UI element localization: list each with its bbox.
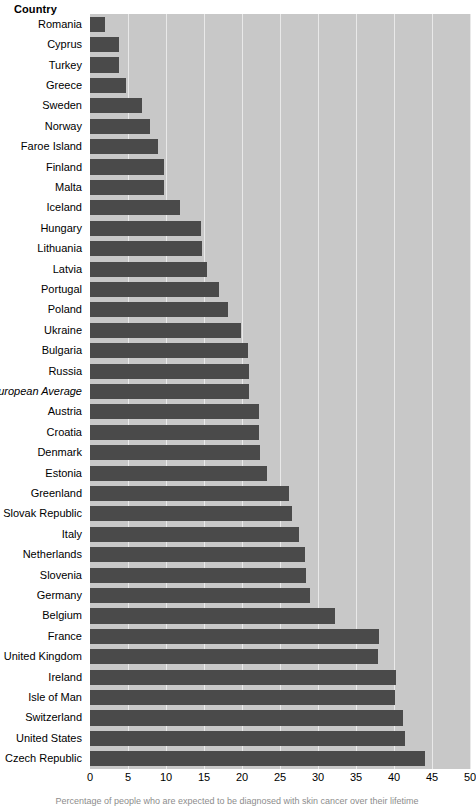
bar xyxy=(90,466,267,481)
bar-rows xyxy=(90,14,470,769)
category-label: Slovenia xyxy=(40,570,82,581)
bar xyxy=(90,404,259,419)
x-axis-tick-label: 10 xyxy=(160,771,172,783)
bar xyxy=(90,37,119,52)
chart-caption: Percentage of people who are expected to… xyxy=(0,796,474,806)
x-axis-tick-label: 45 xyxy=(426,771,438,783)
plot-area xyxy=(90,14,470,769)
bar xyxy=(90,588,310,603)
bar xyxy=(90,78,126,93)
category-label: Belgium xyxy=(42,610,82,621)
bar xyxy=(90,710,403,725)
bar xyxy=(90,17,105,32)
bar xyxy=(90,302,228,317)
category-label: Netherlands xyxy=(23,549,82,560)
category-label: Italy xyxy=(62,529,82,540)
category-label: Greece xyxy=(46,80,82,91)
bar xyxy=(90,384,249,399)
bar xyxy=(90,629,379,644)
bar xyxy=(90,527,299,542)
bar xyxy=(90,221,201,236)
category-label: Finland xyxy=(46,162,82,173)
category-label: Austria xyxy=(48,406,82,417)
bar xyxy=(90,57,119,72)
bar xyxy=(90,751,425,766)
category-label: Latvia xyxy=(53,264,82,275)
bar xyxy=(90,506,292,521)
category-label: Russia xyxy=(48,366,82,377)
category-label: Denmark xyxy=(37,447,82,458)
category-label: Ukraine xyxy=(44,325,82,336)
category-label: Norway xyxy=(45,121,82,132)
bar xyxy=(90,547,305,562)
category-label: France xyxy=(48,631,82,642)
bar xyxy=(90,364,249,379)
x-axis-tick-label: 25 xyxy=(274,771,286,783)
bar xyxy=(90,731,405,746)
category-label: Lithuania xyxy=(37,243,82,254)
bar xyxy=(90,323,241,338)
category-label: Poland xyxy=(48,304,82,315)
category-label: United Kingdom xyxy=(4,651,82,662)
x-axis-tick-label: 35 xyxy=(350,771,362,783)
bar xyxy=(90,119,150,134)
bar xyxy=(90,139,158,154)
category-label: United States xyxy=(16,733,82,744)
category-label: Slovak Republic xyxy=(3,508,82,519)
category-label: Malta xyxy=(55,182,82,193)
x-axis-tick-label: 20 xyxy=(236,771,248,783)
x-axis-tick-label: 0 xyxy=(87,771,93,783)
bar xyxy=(90,98,142,113)
category-label: Cyprus xyxy=(47,39,82,50)
bar xyxy=(90,445,260,460)
bar xyxy=(90,159,164,174)
x-axis-tick-label: 5 xyxy=(125,771,131,783)
bar xyxy=(90,200,180,215)
category-label: Estonia xyxy=(45,468,82,479)
x-axis-tick-label: 50 xyxy=(464,771,476,783)
category-label: Czech Republic xyxy=(5,753,82,764)
category-label: Portugal xyxy=(41,284,82,295)
category-label: Switzerland xyxy=(25,712,82,723)
x-axis-tick-label: 15 xyxy=(198,771,210,783)
category-label: Turkey xyxy=(49,60,82,71)
bar xyxy=(90,241,202,256)
category-label: Greenland xyxy=(31,488,82,499)
bar xyxy=(90,486,289,501)
category-label: Romania xyxy=(38,19,82,30)
bar xyxy=(90,343,248,358)
bar xyxy=(90,608,335,623)
category-label-column: RomaniaCyprusTurkeyGreeceSwedenNorwayFar… xyxy=(0,14,86,769)
category-label: Croatia xyxy=(47,427,82,438)
bar xyxy=(90,425,259,440)
category-label: Sweden xyxy=(42,100,82,111)
bar xyxy=(90,649,378,664)
bar xyxy=(90,282,219,297)
bar xyxy=(90,690,395,705)
gridline xyxy=(470,14,471,769)
category-label: Faroe Island xyxy=(21,141,82,152)
category-label: Isle of Man xyxy=(28,692,82,703)
x-axis: 05101520253035404550 xyxy=(0,769,474,789)
category-label: Ireland xyxy=(48,672,82,683)
x-axis-tick-label: 30 xyxy=(312,771,324,783)
bar xyxy=(90,262,207,277)
bar xyxy=(90,568,306,583)
x-axis-tick-label: 40 xyxy=(388,771,400,783)
bar xyxy=(90,670,396,685)
category-label: Iceland xyxy=(47,202,82,213)
bar xyxy=(90,180,164,195)
category-label: Hungary xyxy=(40,223,82,234)
category-label: Bulgaria xyxy=(42,345,82,356)
category-label: European Average xyxy=(0,386,82,397)
category-label: Germany xyxy=(37,590,82,601)
